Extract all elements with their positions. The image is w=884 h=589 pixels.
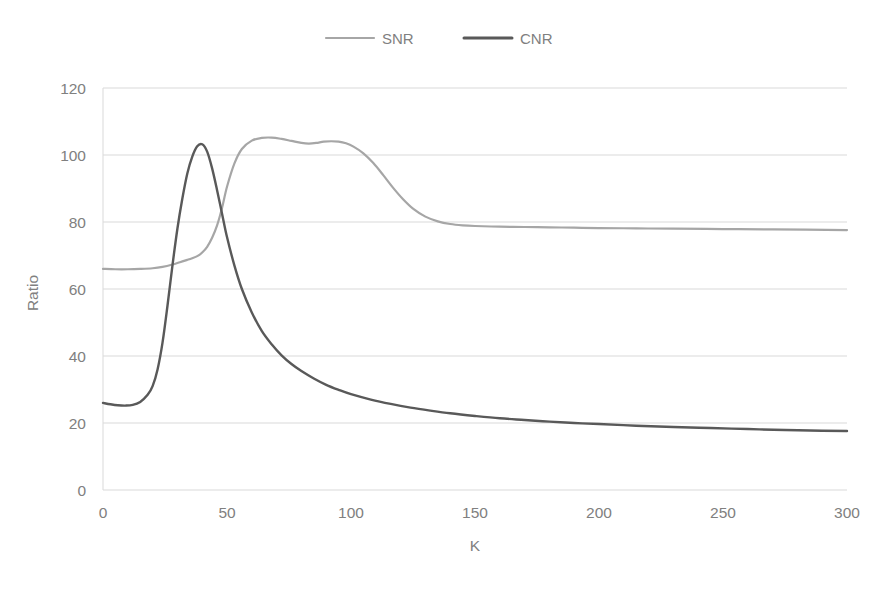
y-tick-label-40: 40 xyxy=(69,348,87,365)
x-tick-label-250: 250 xyxy=(710,504,736,521)
y-axis-title: Ratio xyxy=(24,275,41,311)
x-tick-label-100: 100 xyxy=(338,504,364,521)
legend-label-cnr: CNR xyxy=(520,30,553,47)
y-tick-label-120: 120 xyxy=(60,80,86,97)
x-tick-label-200: 200 xyxy=(586,504,612,521)
series-line-cnr xyxy=(103,144,847,431)
y-tick-label-100: 100 xyxy=(60,147,86,164)
y-tick-label-0: 0 xyxy=(77,482,86,499)
x-tick-label-0: 0 xyxy=(99,504,108,521)
legend-group: SNRCNR xyxy=(326,30,553,47)
x-tick-labels-group: 050100150200250300 xyxy=(99,504,861,521)
x-tick-label-150: 150 xyxy=(462,504,488,521)
legend-label-snr: SNR xyxy=(382,30,414,47)
x-tick-label-50: 50 xyxy=(218,504,236,521)
y-tick-label-60: 60 xyxy=(69,281,87,298)
chart-container: 020406080100120 050100150200250300 SNRCN… xyxy=(0,0,884,589)
y-tick-label-20: 20 xyxy=(69,415,87,432)
y-tick-label-80: 80 xyxy=(69,214,87,231)
chart-canvas: 020406080100120 050100150200250300 SNRCN… xyxy=(0,0,884,589)
series-group xyxy=(103,137,847,431)
x-tick-label-300: 300 xyxy=(834,504,860,521)
y-tick-labels-group: 020406080100120 xyxy=(60,80,86,499)
x-axis-title: K xyxy=(470,537,481,554)
series-line-snr xyxy=(103,137,847,269)
